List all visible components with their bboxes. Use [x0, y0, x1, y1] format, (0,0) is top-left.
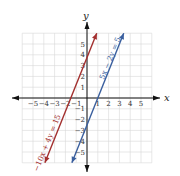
svg-text:−5: −5 — [28, 100, 38, 108]
svg-text:1: 1 — [81, 84, 85, 92]
coordinate-plane: −5−4−3−2−11234554321−1−2−3−4−5 x y 5x − … — [0, 0, 180, 176]
x-axis-label: x — [164, 92, 170, 103]
y-axis-label: y — [82, 10, 89, 21]
svg-text:5: 5 — [81, 41, 85, 49]
line2-equation-label: 5x − 2y = 5 — [98, 36, 123, 81]
svg-text:4: 4 — [128, 100, 133, 108]
svg-text:−1: −1 — [75, 105, 85, 113]
svg-text:2: 2 — [81, 73, 85, 81]
svg-text:−4: −4 — [39, 100, 50, 108]
svg-text:2: 2 — [106, 100, 110, 108]
line1-equation-label: −10x + 4y = 15 — [32, 113, 63, 173]
svg-text:5: 5 — [139, 100, 143, 108]
axes — [12, 22, 160, 172]
svg-text:4: 4 — [81, 51, 86, 59]
svg-text:3: 3 — [117, 100, 121, 108]
svg-text:−3: −3 — [49, 100, 59, 108]
svg-text:−2: −2 — [75, 116, 85, 124]
